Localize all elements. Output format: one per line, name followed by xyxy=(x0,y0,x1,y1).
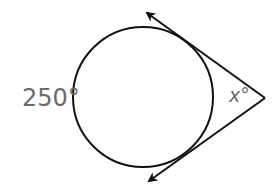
degree-symbol: ° xyxy=(240,84,250,106)
circle xyxy=(73,27,213,167)
angle-variable: x xyxy=(229,84,240,106)
tangent-circle-diagram: 250° x° xyxy=(0,0,280,184)
tangent-angle-label: x° xyxy=(229,86,250,105)
lower-tangent-ray xyxy=(149,98,265,181)
major-arc-measure-label: 250° xyxy=(22,86,80,110)
